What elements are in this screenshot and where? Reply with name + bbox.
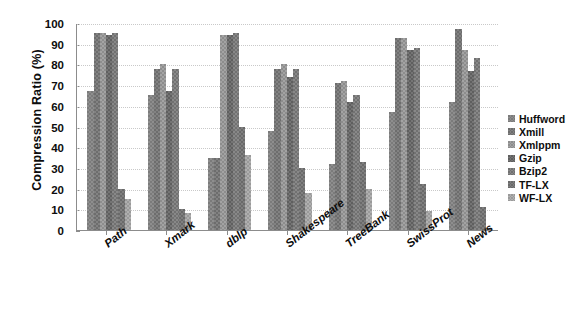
legend-item: Huffword xyxy=(508,112,565,125)
bar-group xyxy=(208,24,251,230)
y-axis-tick-label: 20 xyxy=(34,184,64,196)
legend-item: Xmill xyxy=(508,125,565,138)
x-axis-tick-mark xyxy=(408,231,409,235)
bar-group xyxy=(87,24,130,230)
bar-group xyxy=(389,24,432,230)
legend-label: Gzip xyxy=(519,152,542,164)
y-axis-tick-label: 40 xyxy=(34,142,64,154)
y-axis-tick-label: 60 xyxy=(34,101,64,113)
legend-label: TF-LX xyxy=(519,179,549,191)
chart-legend: HuffwordXmillXmlppmGzipBzip2TF-LXWF-LX xyxy=(508,112,565,204)
x-axis-tick-mark xyxy=(227,231,228,235)
legend-swatch-icon xyxy=(508,168,515,175)
legend-swatch-icon xyxy=(508,115,515,122)
y-axis-tick-label: 0 xyxy=(34,225,64,237)
y-axis-tick-label: 100 xyxy=(34,18,64,30)
legend-label: Bzip2 xyxy=(519,165,547,177)
legend-item: WF-LX xyxy=(508,191,565,204)
legend-item: TF-LX xyxy=(508,178,565,191)
y-axis-tick-label: 70 xyxy=(34,80,64,92)
bar xyxy=(474,58,480,230)
bar-group xyxy=(449,24,492,230)
y-axis-tick-label: 90 xyxy=(34,39,64,51)
legend-swatch-icon xyxy=(508,141,515,148)
x-axis-tick-mark xyxy=(468,231,469,235)
bar-chart-figure: Compression Ratio (%) 010203040506070809… xyxy=(0,0,588,309)
bar xyxy=(125,199,131,230)
plot-area xyxy=(76,24,498,231)
x-axis-tick-mark xyxy=(287,231,288,235)
legend-label: Xmlppm xyxy=(519,139,560,151)
legend-label: Xmill xyxy=(519,126,544,138)
plot-inner xyxy=(77,24,498,230)
legend-label: Huffword xyxy=(519,113,565,125)
legend-item: Gzip xyxy=(508,152,565,165)
legend-item: Xmlppm xyxy=(508,138,565,151)
legend-swatch-icon xyxy=(508,194,515,201)
bar-group xyxy=(268,24,311,230)
y-axis-tick-mark xyxy=(76,231,80,232)
bar-group xyxy=(148,24,191,230)
legend-item: Bzip2 xyxy=(508,165,565,178)
bar xyxy=(245,155,251,230)
bar xyxy=(172,69,178,230)
y-axis-tick-label: 30 xyxy=(34,163,64,175)
y-axis-tick-label: 10 xyxy=(34,204,64,216)
y-axis-tick-label: 50 xyxy=(34,122,64,134)
legend-label: WF-LX xyxy=(519,192,552,204)
legend-swatch-icon xyxy=(508,155,515,162)
legend-swatch-icon xyxy=(508,128,515,135)
y-axis-tick-label: 80 xyxy=(34,59,64,71)
legend-swatch-icon xyxy=(508,181,515,188)
